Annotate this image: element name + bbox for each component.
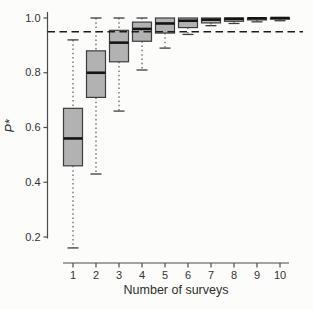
x-tick-label: 1	[70, 269, 76, 281]
x-tick-label: 7	[208, 269, 214, 281]
x-tick-label: 6	[185, 269, 191, 281]
x-axis-label: Number of surveys	[124, 283, 229, 297]
iqr-box	[179, 18, 198, 28]
figure-page: 1.00.80.60.40.2 12345678910 P* Number of…	[0, 0, 313, 309]
x-tick-label: 3	[116, 269, 122, 281]
y-axis-label: P*	[3, 118, 17, 132]
iqr-box	[64, 108, 83, 165]
iqr-box	[110, 30, 129, 61]
box-group-2	[87, 18, 106, 174]
y-tick-label: 0.4	[25, 176, 40, 188]
box-group-5	[156, 18, 175, 48]
y-tick-label: 1.0	[25, 12, 40, 24]
box-group-9	[248, 18, 267, 22]
x-tick-label: 9	[254, 269, 260, 281]
box-group-1	[64, 40, 83, 248]
y-tick-label: 0.2	[25, 231, 40, 243]
x-tick-label: 2	[93, 269, 99, 281]
boxplot-chart: 1.00.80.60.40.2 12345678910 P* Number of…	[0, 0, 313, 309]
boxplot-series	[64, 18, 290, 248]
y-axis: 1.00.80.60.40.2	[25, 12, 47, 243]
x-tick-label: 10	[274, 269, 286, 281]
x-axis: 12345678910	[63, 263, 289, 281]
y-tick-label: 0.8	[25, 66, 40, 78]
x-tick-label: 4	[139, 269, 145, 281]
x-tick-label: 5	[162, 269, 168, 281]
box-group-10	[271, 18, 290, 21]
iqr-box	[87, 51, 106, 98]
box-group-4	[133, 18, 152, 70]
box-group-7	[202, 18, 221, 26]
iqr-box	[156, 18, 175, 33]
box-group-8	[225, 18, 244, 23]
y-tick-label: 0.6	[25, 121, 40, 133]
x-tick-label: 8	[231, 269, 237, 281]
